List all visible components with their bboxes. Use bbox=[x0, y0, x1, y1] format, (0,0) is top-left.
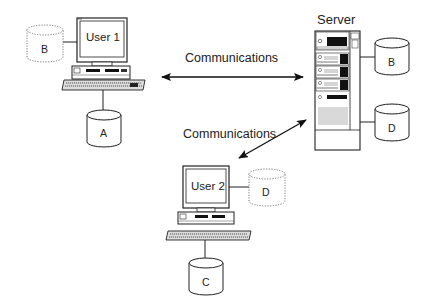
server-tower bbox=[315, 31, 376, 150]
server-label: Server bbox=[317, 12, 355, 27]
user2-label: User 2 bbox=[191, 180, 225, 192]
disk-d-user2-label: D bbox=[262, 186, 270, 198]
disk-c-label: C bbox=[202, 276, 210, 288]
comm-label-bottom: Communications bbox=[183, 127, 276, 141]
disk-b-server-label: B bbox=[388, 56, 395, 68]
disk-d-server-label: D bbox=[388, 122, 396, 134]
user1-label: User 1 bbox=[86, 31, 120, 43]
disk-b-user1-label: B bbox=[41, 43, 48, 55]
disk-a-label: A bbox=[100, 127, 107, 139]
diagram-canvas: User 1 B A Communications Server B D Com… bbox=[0, 0, 438, 308]
comm-label-top: Communications bbox=[185, 51, 278, 65]
